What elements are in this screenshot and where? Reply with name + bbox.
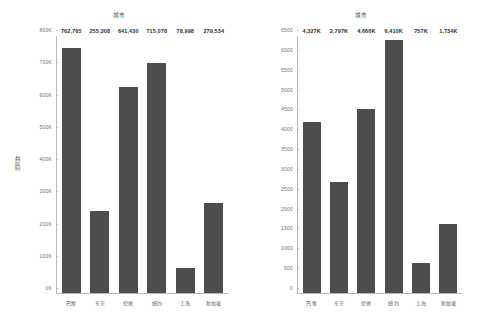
y-tick-label: 4500 [281, 106, 293, 112]
y-tick-right-9: 4500 [281, 106, 297, 112]
y-tick-right-1: 500 [284, 265, 297, 271]
y-tick-left-4: 400K [40, 156, 56, 162]
y-tick-right-13: 6500 [281, 27, 297, 33]
y-tick-mark [297, 248, 299, 249]
bar[interactable]: 6,410K [385, 40, 403, 293]
bar-slot[interactable]: 757K [407, 36, 434, 293]
bar[interactable]: 279,534 [204, 203, 223, 293]
bar-slot[interactable]: 1,734K [435, 36, 462, 293]
bar-slot[interactable]: 715,078 [143, 36, 172, 293]
bar[interactable]: 255,308 [90, 211, 109, 293]
bar-slot[interactable]: 6,410K [380, 36, 407, 293]
x-tick-label: 新加坡 [435, 294, 462, 306]
y-tick-right-12: 6000 [281, 47, 297, 53]
bar-value-label: 2,797K [330, 28, 348, 34]
bar-value-label: 4,327K [302, 28, 320, 34]
plot-area-right: 4,327K2,797K4,666K6,410K757K1,734K 巴黎东京伦… [297, 36, 462, 294]
y-tick-left-0: 0K [45, 285, 56, 291]
y-tick-label: 3500 [281, 146, 293, 152]
y-tick-left-5: 500K [40, 124, 56, 130]
y-tick-mark [297, 30, 299, 31]
bar-value-label: 6,410K [384, 28, 402, 34]
x-tick-label: 上海 [171, 294, 200, 306]
y-tick-label: 200K [40, 221, 52, 227]
y-tick-right-8: 4000 [281, 126, 297, 132]
bar-value-label: 641,430 [118, 28, 139, 34]
chart-panel-right: 城市 Total 4,327K2,797K4,666K6,410K757K1,7… [241, 0, 483, 328]
y-tick-right-4: 2000 [281, 206, 297, 212]
y-tick-right-10: 5000 [281, 87, 297, 93]
bar-slot[interactable]: 4,666K [353, 36, 380, 293]
bar[interactable]: 1,734K [439, 224, 457, 293]
bar-slot[interactable]: 78,998 [171, 36, 200, 293]
x-tick-labels-left: 巴黎东京伦敦纽约上海新加坡 [57, 294, 228, 306]
y-tick-label: 500K [40, 124, 52, 130]
dual-bar-chart-page: 城市 居民数 762,765255,308641,430715,07878,99… [0, 0, 483, 328]
bar[interactable]: 2,797K [330, 182, 348, 293]
y-tick-mark [297, 70, 299, 71]
y-tick-right-11: 5500 [281, 67, 297, 73]
y-tick-mark [297, 288, 299, 289]
y-tick-label: 800K [40, 27, 52, 33]
bar[interactable]: 4,327K [303, 122, 321, 293]
y-axis-label-left: 居民数 [13, 144, 20, 184]
y-tick-right-6: 3000 [281, 166, 297, 172]
y-tick-label: 600K [40, 92, 52, 98]
bar-series-right: 4,327K2,797K4,666K6,410K757K1,734K [298, 36, 462, 293]
bar-slot[interactable]: 641,430 [114, 36, 143, 293]
bar-value-label: 279,534 [203, 28, 224, 34]
bar[interactable]: 715,078 [147, 63, 166, 293]
bar[interactable]: 757K [412, 263, 430, 293]
y-tick-label: 500 [284, 265, 293, 271]
y-tick-mark [297, 90, 299, 91]
chart-title-right: 城市 [255, 11, 467, 19]
y-tick-label: 6500 [281, 27, 293, 33]
y-tick-label: 5000 [281, 87, 293, 93]
y-tick-mark [56, 256, 58, 257]
bar-value-label: 757K [414, 28, 428, 34]
y-tick-label: 5500 [281, 67, 293, 73]
y-tick-left-2: 200K [40, 221, 56, 227]
y-tick-label: 1000 [281, 245, 293, 251]
y-tick-mark [297, 189, 299, 190]
y-tick-label: 4000 [281, 126, 293, 132]
chart-panel-left: 城市 居民数 762,765255,308641,430715,07878,99… [0, 0, 241, 328]
y-tick-mark [297, 149, 299, 150]
bar-value-label: 1,734K [439, 28, 457, 34]
y-tick-label: 700K [40, 59, 52, 65]
y-tick-mark [297, 169, 299, 170]
bar-slot[interactable]: 255,308 [86, 36, 115, 293]
bar-slot[interactable]: 762,765 [57, 36, 86, 293]
bar[interactable]: 762,765 [62, 48, 81, 293]
y-tick-label: 2000 [281, 206, 293, 212]
bar-value-label: 78,998 [177, 28, 194, 34]
x-tick-label: 纽约 [143, 294, 172, 306]
y-tick-label: 300K [40, 188, 52, 194]
y-tick-mark [56, 159, 58, 160]
plot-area-left: 762,765255,308641,430715,07878,998279,53… [56, 36, 228, 294]
y-tick-label: 400K [40, 156, 52, 162]
bar[interactable]: 78,998 [176, 268, 195, 293]
y-tick-left-7: 700K [40, 59, 56, 65]
y-tick-label: 6000 [281, 47, 293, 53]
y-tick-mark [297, 50, 299, 51]
y-tick-label: 0K [45, 285, 52, 291]
x-tick-label: 伦敦 [114, 294, 143, 306]
bar-slot[interactable]: 4,327K [298, 36, 325, 293]
x-tick-label: 巴黎 [57, 294, 86, 306]
y-tick-mark [56, 191, 58, 192]
bar-slot[interactable]: 279,534 [200, 36, 229, 293]
chart-title-left: 城市 [14, 11, 224, 19]
y-tick-right-0: 0 [290, 285, 297, 291]
y-tick-right-2: 1000 [281, 245, 297, 251]
x-tick-label: 上海 [407, 294, 434, 306]
bar-slot[interactable]: 2,797K [325, 36, 352, 293]
bar[interactable]: 641,430 [119, 87, 138, 293]
x-tick-label: 新加坡 [200, 294, 229, 306]
x-tick-label: 东京 [86, 294, 115, 306]
x-tick-label: 纽约 [380, 294, 407, 306]
x-tick-label: 东京 [325, 294, 352, 306]
y-tick-label: 3000 [281, 166, 293, 172]
bar[interactable]: 4,666K [357, 109, 375, 293]
y-tick-right-5: 2500 [281, 186, 297, 192]
